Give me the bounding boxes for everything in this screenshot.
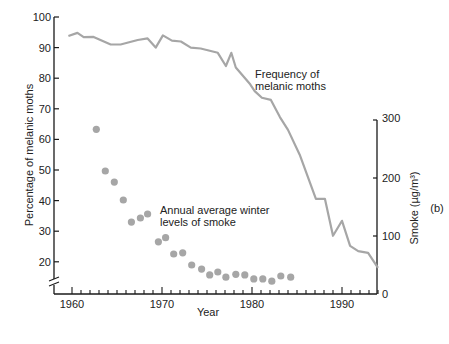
y-right-tick-label: 100 <box>382 230 400 242</box>
smoke-data-point <box>162 234 169 241</box>
smoke-annotation: Annual average winter levels of smoke <box>160 204 273 228</box>
smoke-data-point <box>120 196 127 203</box>
x-tick-label: 1960 <box>60 298 84 310</box>
y-left-tick-label: 30 <box>39 225 51 237</box>
y-left-tick-label: 20 <box>39 256 51 268</box>
y-left-tick-label: 70 <box>39 103 51 115</box>
smoke-data-point <box>170 250 177 257</box>
smoke-data-point <box>277 272 284 279</box>
x-tick-label: 1980 <box>240 298 264 310</box>
x-axis-title: Year <box>197 306 220 318</box>
y-left-tick-label: 100 <box>33 11 51 23</box>
smoke-data-point <box>206 271 213 278</box>
smoke-data-point <box>144 210 151 217</box>
y-axis-right-title: Smoke (µg/m³) <box>408 172 420 245</box>
smoke-data-point <box>214 268 221 275</box>
smoke-data-point <box>102 167 109 174</box>
x-tick-label: 1990 <box>330 298 354 310</box>
melanic-frequency-line <box>68 33 378 268</box>
y-left-tick-label: 60 <box>39 133 51 145</box>
y-right-tick-label: 300 <box>382 112 400 124</box>
smoke-data-point <box>268 278 275 285</box>
x-tick-label: 1970 <box>150 298 174 310</box>
y-right-tick-label: 200 <box>382 172 400 184</box>
smoke-data-point <box>155 238 162 245</box>
smoke-data-point <box>93 126 100 133</box>
melanic-frequency-path <box>68 33 378 268</box>
smoke-data-point <box>222 274 229 281</box>
y-left-tick-label: 50 <box>39 164 51 176</box>
smoke-data-point <box>241 271 248 278</box>
chart: 2030405060708090100196019701980199001002… <box>0 0 449 344</box>
y-left-tick-label: 80 <box>39 72 51 84</box>
smoke-data-point <box>128 219 135 226</box>
axes: 2030405060708090100196019701980199001002… <box>33 11 401 310</box>
smoke-data-point <box>179 249 186 256</box>
panel-label: (b) <box>430 202 443 214</box>
smoke-data-point <box>232 271 239 278</box>
smoke-data-point <box>137 214 144 221</box>
y-right-tick-label: 0 <box>382 288 388 300</box>
melanic-frequency-annotation: Frequency of melanic moths <box>255 68 326 92</box>
smoke-data-point <box>259 275 266 282</box>
y-left-tick-label: 40 <box>39 195 51 207</box>
y-axis-left-title: Percentage of melanic moths <box>23 83 35 226</box>
smoke-data-point <box>188 261 195 268</box>
smoke-data-point <box>111 179 118 186</box>
y-left-tick-label: 90 <box>39 42 51 54</box>
smoke-data-point <box>250 275 257 282</box>
smoke-data-point <box>198 266 205 273</box>
smoke-data-point <box>287 274 294 281</box>
